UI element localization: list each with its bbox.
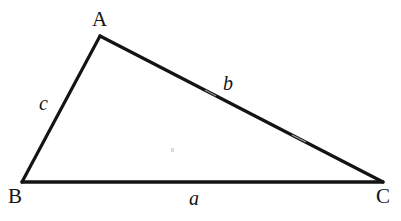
scan-gap-upper xyxy=(205,90,216,96)
triangle-diagram: A B C a b c xyxy=(0,0,401,221)
triangle-side-b-line xyxy=(100,36,383,182)
triangle-svg xyxy=(0,0,401,221)
side-label-a: a xyxy=(189,188,199,208)
side-label-b: b xyxy=(223,73,233,93)
scan-gap-lower xyxy=(292,135,306,142)
side-label-c: c xyxy=(39,93,48,113)
triangle-side-c-line xyxy=(22,36,100,182)
vertex-label-c: C xyxy=(376,186,390,207)
vertex-label-b: B xyxy=(8,186,22,207)
scan-speck-artifact xyxy=(171,148,174,152)
vertex-label-a: A xyxy=(92,9,107,30)
